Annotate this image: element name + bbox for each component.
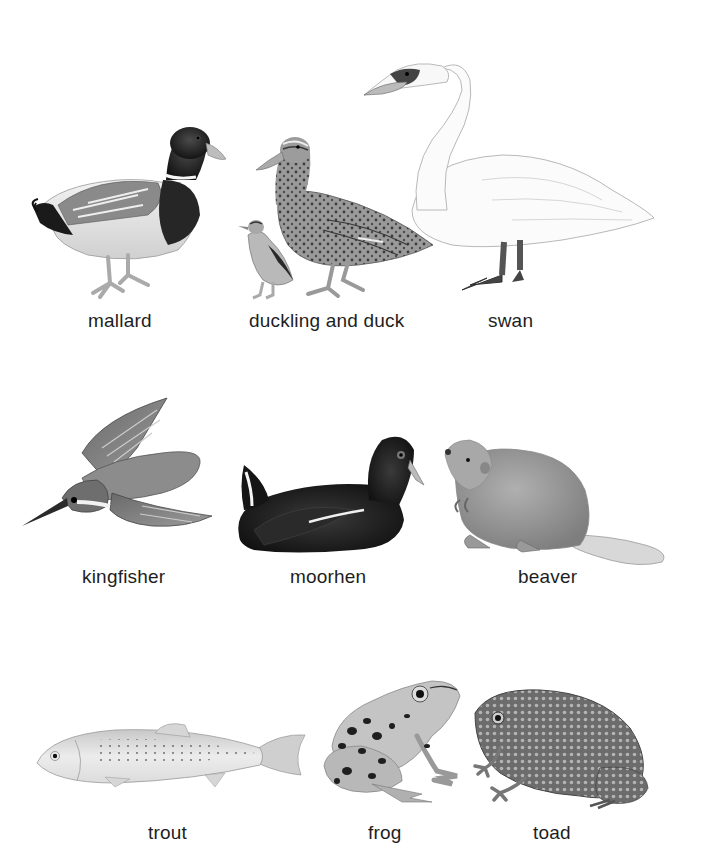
moorhen-illustration-icon (234, 430, 429, 555)
mallard-illustration-icon (28, 125, 233, 300)
swan-figure (362, 60, 658, 295)
duckling-and-duck-label: duckling and duck (249, 310, 405, 332)
mallard-figure (28, 125, 233, 300)
moorhen-label: moorhen (290, 566, 366, 588)
swan-label: swan (488, 310, 533, 332)
beaver-illustration-icon (440, 440, 670, 570)
trout-illustration-icon (35, 715, 307, 790)
frog-illustration-icon (322, 676, 467, 806)
trout-label: trout (148, 822, 187, 844)
toad-figure (470, 688, 655, 808)
toad-illustration-icon (470, 688, 655, 808)
animal-illustration-plate: mallard (0, 0, 705, 850)
frog-figure (322, 676, 467, 806)
mallard-label: mallard (88, 310, 152, 332)
swan-illustration-icon (362, 60, 658, 295)
kingfisher-figure (22, 398, 217, 538)
beaver-figure (440, 440, 670, 570)
kingfisher-illustration-icon (22, 398, 217, 538)
toad-label: toad (533, 822, 571, 844)
trout-figure (35, 715, 307, 790)
moorhen-figure (234, 430, 429, 555)
frog-label: frog (368, 822, 402, 844)
kingfisher-label: kingfisher (82, 566, 165, 588)
beaver-label: beaver (518, 566, 577, 588)
